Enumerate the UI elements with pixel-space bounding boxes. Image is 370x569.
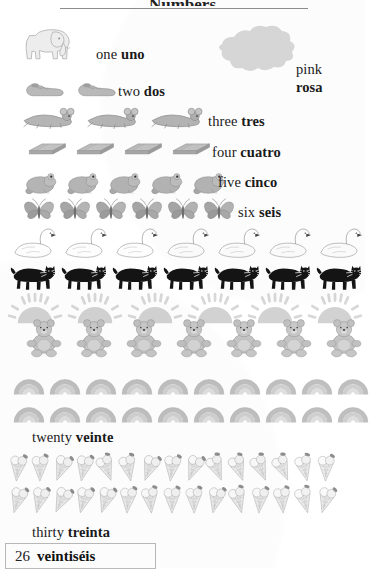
ice-cream-cone-icon	[6, 452, 30, 482]
teddy-bear-icon	[174, 318, 214, 358]
rainbow-icon	[264, 374, 298, 395]
color-label-english: pink	[296, 61, 322, 77]
row-label-english: thirty	[32, 524, 64, 540]
cat-icon	[61, 258, 109, 293]
page-number-box: 26 veintiséis	[5, 543, 156, 569]
row-label-english: one	[96, 46, 117, 62]
row-label-english: six	[238, 204, 255, 220]
row-label-spanish: uno	[121, 46, 145, 62]
butterfly-icon	[58, 196, 92, 225]
rainbow-icon	[12, 374, 46, 395]
row-label-three: three tres	[208, 114, 265, 129]
cat-icon	[316, 258, 364, 293]
frog-icon	[22, 166, 60, 196]
counting-row-four	[26, 138, 212, 158]
counting-row-six	[22, 196, 236, 225]
cat-icon	[265, 258, 313, 293]
rainbow-row	[12, 374, 370, 395]
butterfly-icon	[94, 196, 128, 225]
butterfly-icon	[166, 196, 200, 225]
shoe-icon	[76, 76, 118, 97]
row-label-spanish: veinte	[76, 429, 114, 445]
teddy-bear-icon	[24, 318, 64, 358]
counting-row-eight	[10, 258, 364, 293]
counting-row-five	[22, 166, 228, 196]
rainbow-icon	[120, 402, 154, 423]
row-label-one: one uno	[96, 47, 145, 62]
row-label-english: five	[218, 174, 241, 190]
butterfly-icon	[130, 196, 164, 225]
row-label-spanish: treinta	[68, 524, 110, 540]
row-label-spanish: seis	[259, 204, 281, 220]
rainbow-row	[12, 402, 370, 423]
rainbow-icon	[120, 374, 154, 395]
rainbow-icon	[156, 402, 190, 423]
rainbow-icon	[336, 374, 370, 395]
ice-cream-cone-icon	[314, 452, 338, 482]
row-label-spanish: tres	[241, 113, 264, 129]
page-title-text: Numbers	[0, 0, 365, 6]
mouse-icon	[86, 106, 142, 130]
teddy-bear-icon	[274, 318, 314, 358]
counting-row-two	[24, 76, 118, 97]
teddy-bear-icon	[124, 318, 164, 358]
row-label-english: twenty	[32, 429, 72, 445]
rainbow-icon	[228, 402, 262, 423]
mouse-icon	[150, 106, 206, 130]
row-label-six: six seis	[238, 205, 281, 220]
counting-row-ten	[24, 318, 364, 358]
ice-cream-cone-icon	[138, 484, 162, 514]
rainbow-icon	[12, 402, 46, 423]
rainbow-icon	[228, 374, 262, 395]
pink-color-swatch	[216, 22, 294, 74]
pink-blob-shape	[216, 22, 294, 74]
rainbow-icon	[156, 374, 190, 395]
ice-cream-cone-icon	[292, 452, 316, 482]
book-icon	[170, 138, 212, 158]
ice-cream-cone-icon	[160, 484, 184, 514]
rainbow-icon	[84, 402, 118, 423]
page-number-word: veintiséis	[37, 548, 95, 565]
ice-cream-row	[8, 484, 338, 514]
row-label-thirty: thirty treinta	[32, 525, 110, 540]
shoe-icon	[24, 76, 66, 97]
frog-icon	[106, 166, 144, 196]
cat-icon	[214, 258, 262, 293]
color-label-pink: pink rosa	[296, 60, 323, 96]
rainbow-icon	[264, 402, 298, 423]
rainbow-icon	[300, 402, 334, 423]
ice-cream-row	[8, 452, 338, 482]
cat-icon	[112, 258, 160, 293]
frog-icon	[148, 166, 186, 196]
row-label-spanish: cuatro	[240, 144, 281, 160]
row-label-spanish: dos	[144, 83, 165, 99]
row-label-four: four cuatro	[212, 145, 281, 160]
rainbow-icon	[48, 402, 82, 423]
page-title-fragment: Numbers	[0, 0, 365, 6]
mouse-icon	[22, 106, 78, 130]
color-label-spanish: rosa	[296, 79, 323, 95]
row-label-two: two dos	[118, 84, 165, 99]
row-label-english: four	[212, 144, 237, 160]
cat-icon	[163, 258, 211, 293]
rainbow-icon	[300, 374, 334, 395]
rainbow-icon	[84, 374, 118, 395]
page-number: 26	[6, 548, 37, 565]
book-icon	[74, 138, 116, 158]
frog-icon	[64, 166, 102, 196]
teddy-bear-icon	[74, 318, 114, 358]
butterfly-icon	[22, 196, 56, 225]
cat-icon	[10, 258, 58, 293]
row-label-english: two	[118, 83, 140, 99]
ice-cream-cone-icon	[314, 484, 338, 514]
teddy-bear-icon	[224, 318, 264, 358]
book-icon	[122, 138, 164, 158]
rainbow-icon	[192, 402, 226, 423]
book-icon	[26, 138, 68, 158]
rainbow-icon	[48, 374, 82, 395]
row-label-twenty: twenty veinte	[32, 430, 113, 445]
counting-row-three	[22, 106, 206, 130]
header-divider	[60, 8, 308, 9]
counting-row-one	[18, 24, 76, 62]
